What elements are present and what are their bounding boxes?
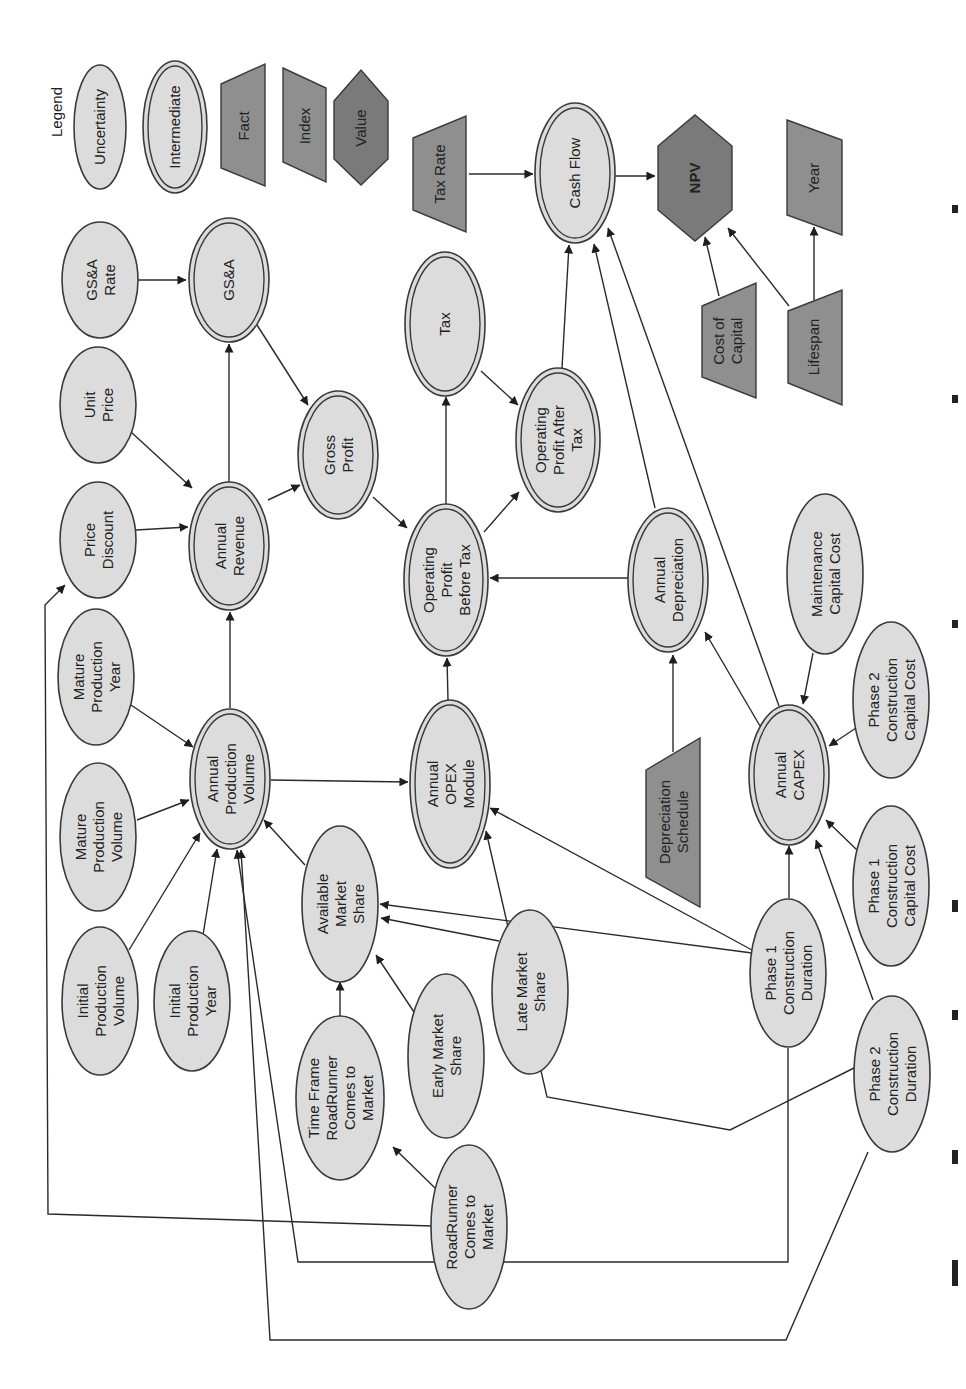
node-tax: Tax bbox=[405, 252, 485, 396]
node-gross-profit: GrossProfit bbox=[298, 391, 378, 519]
edge-cost-of-capital-to-npv bbox=[705, 237, 719, 296]
node-label: GS&A bbox=[220, 259, 237, 301]
node-roadrunner-comes-to-market: RoadRunnerComes toMarket bbox=[431, 1145, 507, 1309]
edge-op-before-tax-to-op-after-tax bbox=[484, 492, 519, 532]
node-annual-capex: AnnualCAPEX bbox=[749, 705, 829, 845]
node-initial-production-year: InitialProductionYear bbox=[154, 931, 230, 1071]
node-lifespan: Lifespan bbox=[788, 290, 842, 405]
node-early-market-share: Early MarketShare bbox=[408, 974, 484, 1138]
node-cost-of-capital: Cost ofCapital bbox=[702, 283, 756, 398]
node-annual-depreciation: AnnualDepreciation bbox=[628, 508, 708, 652]
legend-label: Value bbox=[352, 109, 369, 146]
edge-mature-volume-to-production bbox=[137, 800, 189, 820]
legend-label: Uncertainty bbox=[91, 89, 108, 165]
edge-capex-to-depreciation bbox=[705, 632, 760, 726]
legend-label: Fact bbox=[235, 111, 252, 141]
edge-market-share-to-production bbox=[264, 820, 305, 865]
edge-unit-price-to-revenue bbox=[131, 432, 192, 488]
edge-early-share-to-market-share bbox=[376, 955, 414, 1012]
svg-text:MaintenanceCapital Cost: MaintenanceCapital Cost bbox=[808, 531, 843, 617]
node-label: Lifespan bbox=[805, 319, 822, 376]
figure-caption-fragment bbox=[952, 205, 958, 1286]
influence-diagram: Legend Uncertainty Intermediate Fact Ind… bbox=[0, 0, 966, 1389]
svg-text:AnnualRevenue: AnnualRevenue bbox=[212, 516, 247, 576]
node-annual-opex-module: AnnualOPEXModule bbox=[410, 700, 490, 868]
node-available-market-share: AvailableMarketShare bbox=[302, 826, 378, 982]
node-late-market-share: Late MarketShare bbox=[492, 910, 568, 1074]
node-gsa-rate: GS&ARate bbox=[62, 222, 138, 338]
edge-price-discount-to-revenue bbox=[136, 527, 188, 530]
node-op-after-tax: OperatingProfit AfterTax bbox=[516, 368, 600, 512]
node-depreciation-schedule: DepreciationSchedule bbox=[646, 738, 700, 907]
node-tax-rate: Tax Rate bbox=[413, 116, 466, 232]
node-unit-price: UnitPrice bbox=[60, 347, 136, 463]
legend-title: Legend bbox=[48, 87, 65, 137]
node-label: Cash Flow bbox=[566, 137, 583, 208]
node-phase1-construction-duration: Phase 1ConstructionDuration bbox=[750, 899, 826, 1047]
diagram-canvas: Legend Uncertainty Intermediate Fact Ind… bbox=[0, 0, 966, 1389]
edge-initial-year-to-production bbox=[203, 849, 217, 935]
svg-text:AnnualOPEXModule: AnnualOPEXModule bbox=[424, 759, 477, 808]
node-year: Year bbox=[787, 120, 842, 235]
node-cash-flow: Cash Flow bbox=[535, 103, 615, 243]
legend-item-intermediate: Intermediate bbox=[143, 61, 207, 193]
node-mature-production-year: MatureProductionYear bbox=[58, 609, 134, 745]
legend-label: Index bbox=[296, 107, 313, 144]
node-label: Tax Rate bbox=[431, 144, 448, 203]
node-label: Tax bbox=[436, 312, 453, 336]
node-gsa: GS&A bbox=[189, 218, 269, 342]
edge-roadrunner-to-time-frame bbox=[393, 1147, 435, 1188]
edge-gsa-to-gross-profit bbox=[257, 325, 308, 405]
node-label: Year bbox=[805, 163, 822, 193]
node-initial-production-volume: InitialProductionVolume bbox=[62, 927, 138, 1075]
edge-production-to-opex bbox=[271, 780, 408, 782]
node-phase2-construction-duration: Phase 2ConstructionDuration bbox=[854, 996, 930, 1152]
svg-text:GrossProfit: GrossProfit bbox=[321, 435, 356, 475]
node-mature-production-volume: MatureProductionVolume bbox=[60, 763, 136, 911]
legend-label: Intermediate bbox=[166, 85, 183, 168]
svg-text:AnnualCAPEX: AnnualCAPEX bbox=[772, 750, 807, 801]
node-op-before-tax: OperatingProfitBefore Tax bbox=[404, 504, 488, 656]
legend-item-value: Value bbox=[334, 70, 388, 185]
svg-text:DepreciationSchedule: DepreciationSchedule bbox=[656, 780, 691, 864]
edge-gross-profit-to-op-before-tax bbox=[373, 497, 407, 528]
edge-phase1-cost-to-capex bbox=[826, 820, 857, 850]
node-time-frame-roadrunner: Time FrameRoadRunnerComes toMarket bbox=[296, 1016, 384, 1180]
edge-opex-to-op-before-tax bbox=[447, 658, 448, 700]
edge-late-share-to-market-share bbox=[381, 918, 499, 941]
node-price-discount: PriceDiscount bbox=[60, 482, 136, 598]
node-label: NPV bbox=[686, 163, 703, 194]
node-phase1-capital-cost: Phase 1ConstructionCapital Cost bbox=[853, 806, 929, 966]
edge-depreciation-to-cash-flow bbox=[594, 244, 655, 508]
node-maintenance-capital-cost: MaintenanceCapital Cost bbox=[787, 494, 863, 654]
node-annual-production-volume: AnnualProductionVolume bbox=[190, 709, 270, 849]
edge-mature-year-to-production bbox=[131, 705, 193, 747]
legend-item-uncertainty: Uncertainty bbox=[74, 65, 126, 189]
node-npv: NPV bbox=[658, 115, 732, 241]
svg-text:GS&ARate: GS&ARate bbox=[83, 259, 118, 301]
edge-op-after-tax-to-cash-flow bbox=[562, 245, 569, 368]
edge-tax-to-op-after-tax bbox=[481, 371, 518, 405]
node-annual-revenue: AnnualRevenue bbox=[189, 482, 269, 610]
node-phase2-capital-cost: Phase 2ConstructionCapital Cost bbox=[853, 622, 929, 778]
svg-text:Cost ofCapital: Cost ofCapital bbox=[710, 316, 745, 364]
legend-item-index: Index bbox=[283, 68, 326, 182]
legend-item-fact: Fact bbox=[221, 64, 265, 186]
node-label-line: Annual bbox=[212, 523, 229, 570]
edge-revenue-to-gross-profit bbox=[268, 485, 300, 500]
svg-text:UnitPrice: UnitPrice bbox=[81, 388, 116, 422]
legend: Legend Uncertainty Intermediate Fact Ind… bbox=[48, 61, 388, 193]
edge-maintenance-to-capex bbox=[803, 653, 813, 704]
edge-phase2-cost-to-capex bbox=[829, 728, 856, 746]
